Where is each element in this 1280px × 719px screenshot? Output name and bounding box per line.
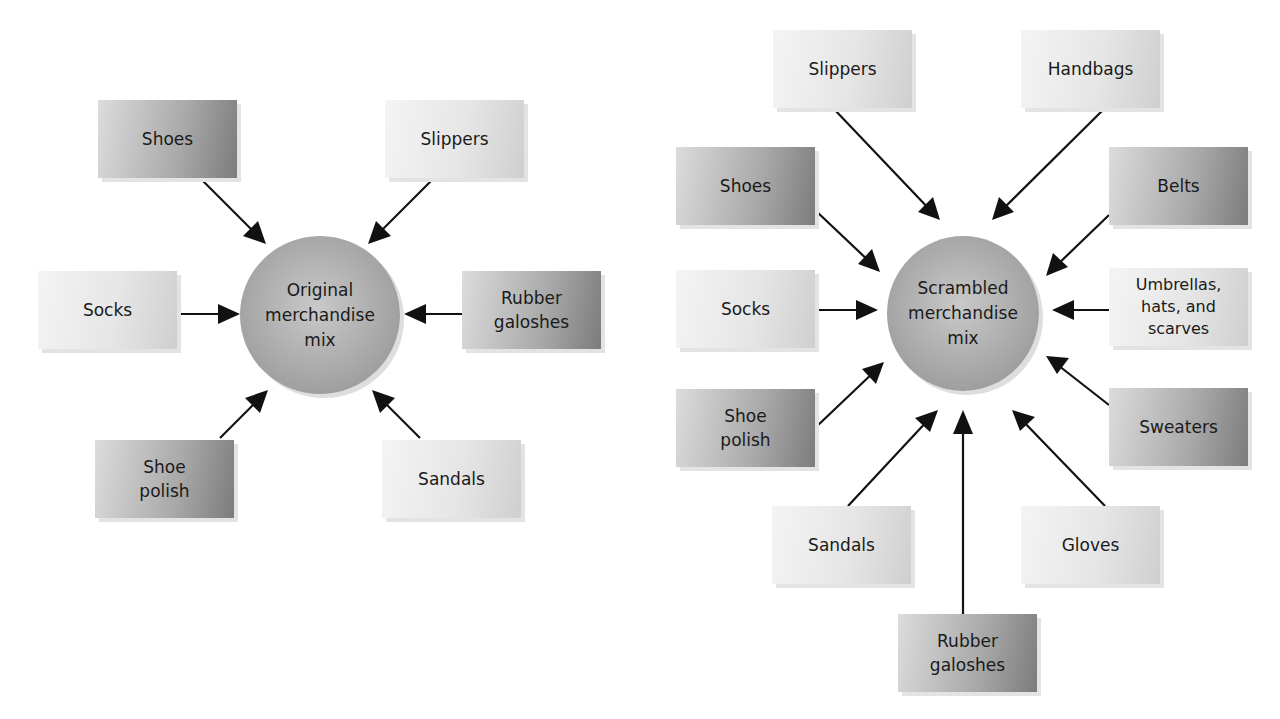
- box-label: Rubber galoshes: [494, 286, 569, 334]
- right-box-slippers: Slippers: [773, 30, 912, 108]
- box-label: Sandals: [418, 467, 485, 491]
- right-box-sweaters: Sweaters: [1109, 388, 1248, 466]
- box-label: Belts: [1157, 174, 1199, 198]
- left-box-shoes: Shoes: [98, 100, 237, 178]
- box-label: Sandals: [808, 533, 875, 557]
- left-box-sandals: Sandals: [382, 440, 521, 518]
- left-hub-circle: Original merchandise mix: [240, 236, 400, 394]
- box-label: Socks: [721, 297, 770, 321]
- box-label: Slippers: [420, 127, 488, 151]
- left-box-rubber-galoshes: Rubber galoshes: [462, 271, 601, 349]
- right-box-handbags: Handbags: [1021, 30, 1160, 108]
- right-box-umbrellas-hats-scarves: Umbrellas, hats, and scarves: [1109, 268, 1248, 346]
- box-label: Shoes: [142, 127, 193, 151]
- box-label: Slippers: [808, 57, 876, 81]
- box-label: Sweaters: [1139, 415, 1218, 439]
- right-box-rubber-galoshes: Rubber galoshes: [898, 614, 1037, 692]
- box-label: Shoe polish: [139, 455, 189, 503]
- box-label: Rubber galoshes: [930, 629, 1005, 677]
- right-box-shoes: Shoes: [676, 147, 815, 225]
- right-box-shoe-polish: Shoe polish: [676, 389, 815, 467]
- box-label: Gloves: [1062, 533, 1120, 557]
- box-label: Handbags: [1048, 57, 1134, 81]
- left-box-socks: Socks: [38, 271, 177, 349]
- right-box-belts: Belts: [1109, 147, 1248, 225]
- box-label: Shoes: [720, 174, 771, 198]
- right-hub-circle: Scrambled merchandise mix: [887, 236, 1039, 391]
- right-box-gloves: Gloves: [1021, 506, 1160, 584]
- hub-label: Scrambled merchandise mix: [908, 276, 1018, 351]
- left-box-shoe-polish: Shoe polish: [95, 440, 234, 518]
- left-box-slippers: Slippers: [385, 100, 524, 178]
- hub-label: Original merchandise mix: [265, 278, 375, 353]
- right-box-socks: Socks: [676, 270, 815, 348]
- right-box-sandals: Sandals: [772, 506, 911, 584]
- box-label: Shoe polish: [720, 404, 770, 452]
- box-label: Socks: [83, 298, 132, 322]
- box-label: Umbrellas, hats, and scarves: [1136, 274, 1222, 340]
- merchandise-mix-diagrams: Original merchandise mix Shoes Slippers …: [0, 0, 1280, 719]
